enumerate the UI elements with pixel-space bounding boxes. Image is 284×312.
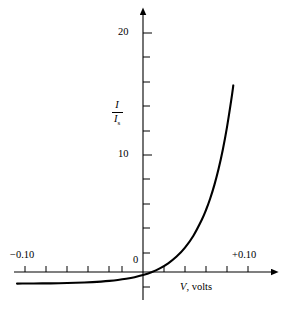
x-axis-ticks-negative <box>25 266 122 272</box>
origin-label: 0 <box>133 255 138 266</box>
diode-characteristic-figure: −0.10 +0.10 20 10 0 V, volts IIs <box>0 0 284 312</box>
y-axis-tick-label-10: 10 <box>118 149 129 160</box>
plot-canvas <box>0 0 284 312</box>
y-axis-title-numerator: I <box>104 100 130 112</box>
y-axis-tick-label-20: 20 <box>118 27 129 38</box>
y-axis-ticks <box>143 33 152 287</box>
x-axis-tick-label-negative: −0.10 <box>10 250 34 261</box>
x-axis-tick-label-positive: +0.10 <box>232 250 256 261</box>
x-axis-title: V, volts <box>180 282 212 293</box>
y-axis-title: IIs <box>104 100 130 127</box>
x-axis-ticks-positive <box>164 266 248 272</box>
y-axis-title-denominator: Is <box>104 113 130 127</box>
x-axis-title-units: , volts <box>186 281 212 292</box>
y-axis-title-denominator-subscript: s <box>117 119 120 127</box>
